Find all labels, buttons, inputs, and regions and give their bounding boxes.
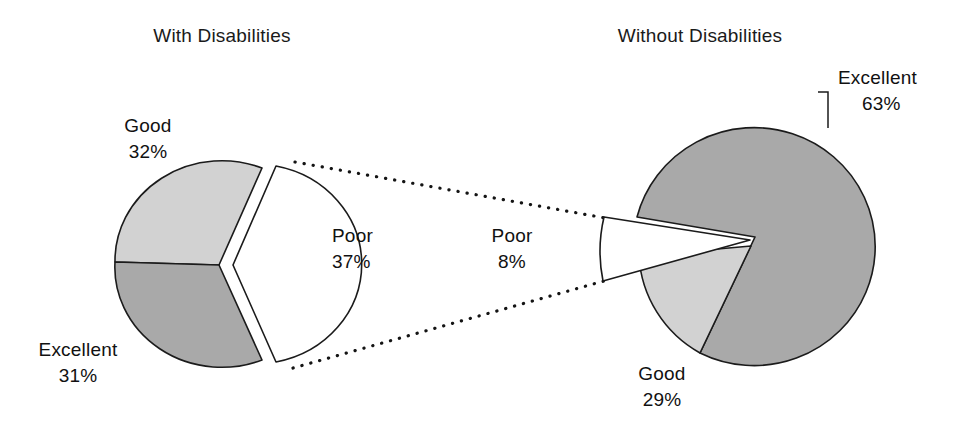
right-label-excellent-name: Excellent [838,67,917,88]
right-label-good-value: 29% [643,389,682,410]
left-chart-title: With Disabilities [153,25,291,46]
right-label-poor-value: 8% [498,251,526,272]
left-label-excellent-value: 31% [59,365,98,386]
right-chart-title: Without Disabilities [618,25,783,46]
right-label-poor-name: Poor [492,225,533,246]
left-label-good-value: 32% [129,141,168,162]
left-label-poor-value: 37% [332,251,371,272]
left-label-excellent-name: Excellent [39,339,118,360]
right-label-excellent-value: 63% [862,93,901,114]
left-label-good-name: Good [124,115,171,136]
pie-chart-figure: With Disabilities Good 32% Excellent 31%… [0,0,958,428]
right-label-good-name: Good [638,363,685,384]
left-label-poor-name: Poor [332,225,373,246]
